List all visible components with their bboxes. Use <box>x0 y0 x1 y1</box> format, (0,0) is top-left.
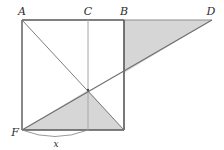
intersection-point <box>87 89 89 91</box>
arc-measure-x <box>22 130 88 137</box>
label-x: x <box>53 139 58 149</box>
segment-fd <box>22 20 212 130</box>
shaded-triangle-fep <box>22 90 124 130</box>
figure-canvas: A C B D F x <box>0 0 224 150</box>
label-a: A <box>17 5 26 18</box>
label-c: C <box>84 5 93 18</box>
label-d: D <box>206 5 216 18</box>
geometry-figure: A C B D F x <box>0 0 224 150</box>
label-f: F <box>10 126 19 139</box>
label-b: B <box>119 5 128 18</box>
